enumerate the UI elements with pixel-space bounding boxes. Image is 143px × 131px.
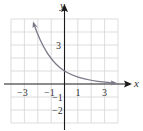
y-tick-label: 3 xyxy=(56,40,61,51)
x-tick-label: −3 xyxy=(17,87,28,98)
axes xyxy=(4,10,126,130)
x-tick-label: 1 xyxy=(76,87,81,98)
y-tick-label: −2 xyxy=(52,105,63,116)
x-axis-label: x xyxy=(133,77,139,89)
x-tick-label: 3 xyxy=(102,87,107,98)
y-axis-label: y xyxy=(59,0,65,11)
exponential-graph: x y −3 −1 1 3 3 −1 −2 xyxy=(0,0,143,131)
y-tick-label: −1 xyxy=(52,92,63,103)
